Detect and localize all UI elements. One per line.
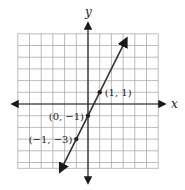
point-label: (−1, −3): [29, 134, 73, 145]
x-axis-label: x: [171, 97, 178, 111]
plot-line: [60, 38, 127, 171]
point-marker: [98, 90, 102, 94]
points: (1, 1)(0, −1)(−1, −3): [29, 87, 132, 145]
point-label: (0, −1): [49, 111, 84, 122]
y-axis-label: y: [84, 5, 92, 19]
coordinate-plane: (1, 1)(0, −1)(−1, −3) y x: [0, 0, 185, 190]
point-marker: [74, 137, 78, 141]
axes: [12, 23, 165, 183]
point-label: (1, 1): [105, 87, 132, 98]
point-marker: [86, 114, 90, 118]
